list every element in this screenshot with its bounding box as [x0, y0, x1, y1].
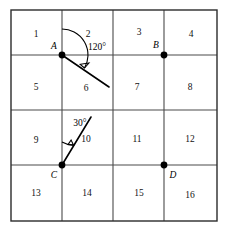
angle-label-30: 30° — [73, 118, 87, 128]
vertex-dot-b — [161, 52, 168, 59]
cell-11: 11 — [132, 134, 141, 144]
geometry-canvas: 1 2 3 4 5 6 7 8 9 10 11 12 13 14 15 16 — [0, 0, 228, 231]
cell-9: 9 — [34, 135, 39, 145]
angle-arc-a — [62, 29, 88, 68]
point-label-b: B — [153, 40, 159, 50]
point-label-d: D — [169, 170, 177, 180]
angle-arrowhead-c — [68, 140, 74, 145]
cell-6: 6 — [84, 83, 89, 93]
vertex-dot-c — [59, 162, 66, 169]
cell-7: 7 — [135, 82, 140, 92]
vertex-dot-a — [59, 52, 66, 59]
angle-label-120: 120° — [88, 42, 106, 52]
cell-8: 8 — [188, 82, 193, 92]
angle-arrowhead-a — [80, 63, 89, 68]
cell-10: 10 — [81, 134, 91, 144]
cell-16: 16 — [185, 190, 195, 200]
cell-3: 3 — [137, 27, 142, 37]
point-label-c: C — [51, 170, 58, 180]
point-label-a: A — [50, 41, 57, 51]
cell-2: 2 — [86, 29, 91, 39]
vertex-dot-d — [161, 162, 168, 169]
cell-14: 14 — [82, 188, 92, 198]
cell-5: 5 — [34, 82, 39, 92]
geometry-diagram: 1 2 3 4 5 6 7 8 9 10 11 12 13 14 15 16 — [0, 0, 228, 231]
cell-15: 15 — [134, 188, 144, 198]
cell-13: 13 — [31, 188, 41, 198]
cell-12: 12 — [185, 134, 195, 144]
cell-4: 4 — [189, 29, 194, 39]
cell-1: 1 — [34, 29, 39, 39]
angle-ray-a — [62, 55, 109, 87]
